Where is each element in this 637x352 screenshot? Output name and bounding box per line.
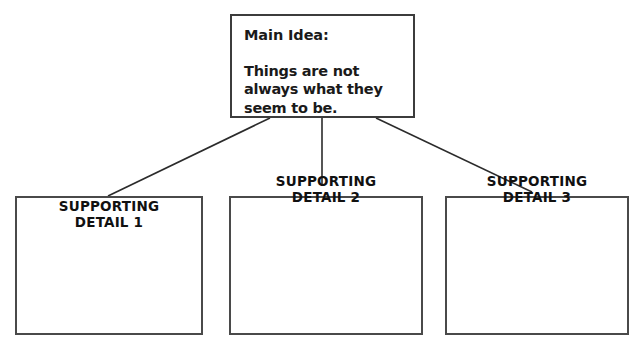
main-idea-box[interactable]: Main Idea: Things are not always what th… xyxy=(230,14,415,118)
supporting-detail-label-2-line2: DETAIL 2 xyxy=(229,190,423,206)
supporting-detail-label-1-line2: DETAIL 1 xyxy=(15,215,203,231)
supporting-detail-label-1: SUPPORTING DETAIL 1 xyxy=(15,199,203,231)
supporting-detail-box-3[interactable] xyxy=(445,196,629,335)
supporting-detail-label-1-line1: SUPPORTING xyxy=(15,199,203,215)
supporting-detail-box-2[interactable] xyxy=(229,196,423,335)
supporting-detail-label-2-line1: SUPPORTING xyxy=(229,174,423,190)
supporting-detail-label-3-line2: DETAIL 3 xyxy=(445,190,629,206)
supporting-detail-label-3: SUPPORTING DETAIL 3 xyxy=(445,174,629,206)
supporting-detail-label-3-line1: SUPPORTING xyxy=(445,174,629,190)
main-idea-graphic-organizer: Main Idea: Things are not always what th… xyxy=(0,0,637,352)
main-idea-heading: Main Idea: xyxy=(244,28,413,44)
supporting-detail-label-2: SUPPORTING DETAIL 2 xyxy=(229,174,423,206)
main-idea-statement: Things are not always what they seem to … xyxy=(244,62,412,118)
